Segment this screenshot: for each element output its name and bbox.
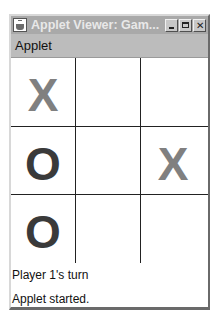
- grid-line-horizontal-2: [11, 194, 208, 195]
- window-title: Applet Viewer: Gam...: [31, 18, 165, 32]
- applet-viewer-window: Applet Viewer: Gam... ✕ Applet X O X O P…: [9, 14, 210, 310]
- turn-status: Player 1's turn: [12, 268, 88, 282]
- cell-1-0[interactable]: O: [11, 127, 75, 195]
- grid-line-vertical-2: [140, 58, 141, 263]
- maximize-button[interactable]: [179, 19, 192, 32]
- java-cup-icon[interactable]: [13, 18, 27, 32]
- cell-1-1[interactable]: [76, 127, 140, 195]
- menu-bar: Applet: [11, 34, 208, 58]
- minimize-button[interactable]: [165, 19, 178, 32]
- grid-line-horizontal-1: [11, 126, 208, 127]
- applet-status: Applet started.: [12, 292, 89, 306]
- menu-applet[interactable]: Applet: [15, 38, 52, 53]
- cell-0-0[interactable]: X: [11, 58, 75, 126]
- cell-0-2[interactable]: [141, 58, 205, 126]
- close-button[interactable]: ✕: [193, 19, 206, 32]
- tic-tac-toe-board: X O X O: [11, 58, 208, 263]
- grid-line-vertical-1: [75, 58, 76, 263]
- cell-2-1[interactable]: [76, 195, 140, 263]
- cell-2-2[interactable]: [141, 195, 205, 263]
- close-icon: ✕: [196, 20, 204, 31]
- cell-2-0[interactable]: O: [11, 195, 75, 263]
- cell-0-1[interactable]: [76, 58, 140, 126]
- cell-1-2[interactable]: X: [141, 127, 205, 195]
- title-bar[interactable]: Applet Viewer: Gam... ✕: [11, 16, 208, 34]
